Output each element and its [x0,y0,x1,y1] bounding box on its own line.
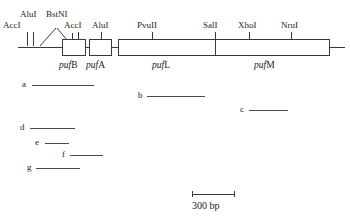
restriction-site-label-nruI: NruI [281,21,298,30]
fragment-line-b [147,96,205,97]
restriction-site-label-aluI-1: AluI [20,10,37,19]
gene-label-pufL: pufL [152,60,170,70]
gene-label-pufA-prefix: puf [86,60,98,70]
scale-bar-cap-left [192,191,193,197]
restriction-site-label-xhoI: XhoI [238,21,257,30]
fragment-label-b: b [138,91,143,100]
fragment-label-c: c [240,105,244,114]
backbone-right [329,47,345,48]
tick-aluI-1 [33,32,34,46]
scale-bar-cap-right [234,191,235,197]
fragment-line-e [45,143,69,144]
restriction-site-label-accI-1: AccI [3,21,21,30]
gene-box-pufB [62,39,86,56]
tick-accI-1 [27,32,28,46]
gene-label-pufA-suffix: A [98,60,105,70]
fragment-label-e: e [35,138,39,147]
gene-label-pufL-prefix: puf [152,60,164,70]
scale-bar-line [192,194,234,195]
restriction-site-label-aluI-2: AluI [92,21,109,30]
gene-label-pufM-prefix: puf [254,60,266,70]
gene-label-pufM-suffix: M [266,60,274,70]
scale-bar-label: 300 bp [192,201,220,211]
gene-box-pufM [215,39,330,56]
gene-label-pufB: pufB [59,60,77,70]
restriction-map-figure: AccI AluI BstNI AccI AluI PvuII SalI Xho… [0,0,350,221]
fragment-label-g: g [27,163,32,172]
gene-label-pufM: pufM [254,60,275,70]
fragment-label-d: d [20,123,25,132]
fragment-line-g [36,168,80,169]
restriction-site-label-salI: SalI [203,21,218,30]
restriction-site-label-pvuII: PvuII [137,21,157,30]
restriction-site-label-bstNI: BstNI [46,10,68,19]
fragment-line-d [30,128,75,129]
gene-label-pufL-suffix: L [164,60,170,70]
fragment-label-a: a [22,80,26,89]
fragment-line-c [249,110,288,111]
fragment-line-a [32,85,94,86]
gene-box-pufL [118,39,216,56]
fragment-label-f: f [62,150,65,159]
gene-label-pufA: pufA [86,60,105,70]
gene-label-pufB-prefix: puf [59,60,71,70]
gene-label-pufB-suffix: B [71,60,77,70]
gene-box-pufA [89,39,112,56]
backbone-left [18,47,62,48]
fragment-line-f [70,155,103,156]
